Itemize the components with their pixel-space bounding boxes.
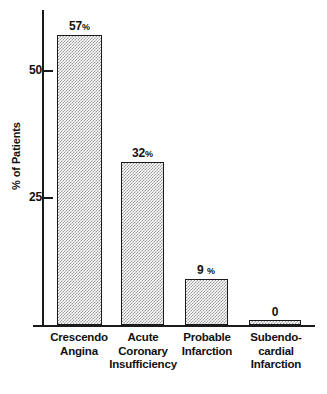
- bar-3[interactable]: 9 %: [185, 279, 228, 325]
- y-axis-tick-label-50: 50: [16, 65, 42, 75]
- bar-value-percent-sign: %: [82, 22, 90, 32]
- bar-value-number: 57: [69, 19, 82, 33]
- category-label-line: Infarction: [168, 345, 246, 359]
- y-axis-tick-label-wrap: 50: [0, 65, 42, 75]
- bar-chart: % of Patients 5025 57%32%9 %0 CrescendoA…: [0, 0, 327, 394]
- bar-value-percent-sign: %: [145, 149, 153, 159]
- bar-value-percent-sign: %: [203, 266, 216, 276]
- bar-value-label: 9 %: [197, 264, 216, 277]
- category-label-line: Subendo-: [237, 331, 315, 345]
- x-axis-category-labels: CrescendoAnginaAcuteCoronaryInsufficienc…: [44, 331, 315, 391]
- bar-value-label: 0: [272, 306, 278, 318]
- bar-value-number: 32: [132, 146, 145, 160]
- bar-slot: 32%: [121, 162, 164, 325]
- bar-4[interactable]: 0: [249, 320, 301, 325]
- category-label-line: cardial: [237, 345, 315, 359]
- y-axis-tick-label-25: 25: [16, 192, 42, 202]
- category-label-line: Insufficiency: [102, 358, 184, 372]
- bar-slot: 57%: [57, 35, 102, 325]
- bar-2[interactable]: 32%: [121, 162, 164, 325]
- bar-slot: 0: [249, 320, 301, 325]
- bar-slot: 9 %: [185, 279, 228, 325]
- category-label-3: ProbableInfarction: [168, 331, 246, 358]
- bar-value-label: 32%: [132, 147, 153, 160]
- bar-value-label: 57%: [69, 20, 90, 33]
- category-label-4: Subendo-cardialInfarction: [237, 331, 315, 372]
- bar-1[interactable]: 57%: [57, 35, 102, 325]
- category-label-line: Infarction: [237, 358, 315, 372]
- bar-value-number: 0: [272, 305, 278, 319]
- x-axis-line: [33, 325, 315, 327]
- y-axis-tick-label-wrap: 25: [0, 192, 42, 202]
- plot-area: 57%32%9 %0: [44, 10, 315, 325]
- category-label-line: Probable: [168, 331, 246, 345]
